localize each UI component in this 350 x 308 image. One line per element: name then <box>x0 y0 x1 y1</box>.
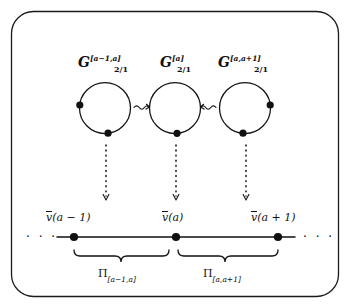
node-a-minus-1-label: v(a − 1) <box>46 212 91 223</box>
node-a-plus-1-label-base: v <box>251 212 257 223</box>
group-label-middle: G[a]2/1 <box>160 55 198 72</box>
group-label-left-base: G <box>78 54 90 70</box>
circle-right-point-east <box>267 101 274 108</box>
group-label-middle-superscript: [a] <box>172 54 184 63</box>
brace-right-label-subscript: [a,a+1] <box>213 275 241 284</box>
dotted-arrow-left <box>103 145 109 200</box>
group-label-right-subscript: 2/1 <box>254 64 268 74</box>
group-label-middle-base: G <box>160 54 172 70</box>
group-label-right: G[a,a+1]2/1 <box>218 55 275 72</box>
node-a-plus-1-label: v(a + 1) <box>251 212 296 223</box>
number-line-right-ellipsis: · · · <box>303 231 335 243</box>
number-line <box>57 233 295 241</box>
number-line-left-ellipsis: · · · <box>26 231 58 243</box>
circle-right-point-south <box>239 130 246 137</box>
brace-left-label-base: Π <box>98 267 108 280</box>
node-a-minus-1-label-arg: (a − 1) <box>52 211 90 224</box>
node-a-label: v(a) <box>162 212 183 223</box>
brace-left-shape <box>74 250 169 262</box>
circle-middle <box>150 83 201 137</box>
node-a-label-arg: (a) <box>168 211 183 224</box>
circle-right <box>220 83 274 137</box>
brace-right-shape <box>178 250 278 262</box>
dotted-arrow-middle <box>173 145 179 200</box>
node-a-minus-1-label-base: v <box>46 212 52 223</box>
brace-right-label: Π[a,a+1] <box>203 268 241 282</box>
node-a-plus-1-dot <box>274 233 282 241</box>
group-label-right-superscript: [a,a+1] <box>230 54 261 63</box>
group-label-middle-subscript: 2/1 <box>177 64 191 74</box>
circle-left <box>76 83 130 137</box>
circle-left-point-south <box>104 130 111 137</box>
group-label-left-superscript: [a−1,a] <box>90 54 121 63</box>
figure-container: G[a−1,a]2/1 G[a]2/1 G[a,a+1]2/1 · · · · … <box>0 0 350 308</box>
group-label-right-base: G <box>218 54 230 70</box>
brace-left-label: Π[a−1,a] <box>98 268 136 282</box>
brace-left-label-subscript: [a−1,a] <box>108 275 136 284</box>
squiggle-left-to-middle <box>134 104 150 109</box>
node-a-plus-1-label-arg: (a + 1) <box>257 211 295 224</box>
squiggle-right-to-middle <box>200 104 216 109</box>
dotted-arrow-right <box>243 145 249 200</box>
group-label-left-subscript: 2/1 <box>114 64 128 74</box>
brace-right-label-base: Π <box>203 267 213 280</box>
node-a-minus-1-dot <box>70 233 78 241</box>
group-label-left: G[a−1,a]2/1 <box>78 55 135 72</box>
diagram-canvas <box>0 0 350 308</box>
circle-middle-point-south <box>173 130 180 137</box>
node-a-dot <box>172 233 180 241</box>
node-a-label-base: v <box>162 212 168 223</box>
circle-left-point-west <box>76 101 83 108</box>
